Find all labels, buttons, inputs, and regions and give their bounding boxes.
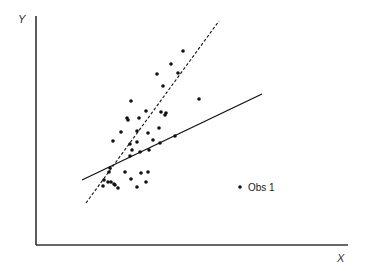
data-point [129,99,133,103]
data-point [169,62,173,66]
data-point [107,170,111,174]
data-point [158,141,162,145]
data-point [123,170,127,174]
data-point [146,170,150,174]
data-point [155,72,159,76]
data-point [139,171,143,175]
data-point [137,116,141,120]
data-point [128,142,132,146]
data-point [144,109,148,113]
scatter-chart: Y X Obs 1 [0,0,366,271]
data-point [135,140,139,144]
data-point [138,150,142,154]
data-point [181,49,185,53]
data-point [197,97,201,101]
data-point [147,148,151,152]
data-point [163,113,167,117]
data-point [128,154,132,158]
data-point [176,71,180,75]
data-point [151,138,155,142]
data-point [173,134,177,138]
y-axis-label: Y [18,13,26,25]
data-point [109,180,113,184]
regression-dashed-line [86,21,219,203]
data-point [161,84,165,88]
data-point [111,139,115,143]
data-point [135,129,139,133]
data-point [126,118,130,122]
data-point [144,180,148,184]
data-point [116,186,120,190]
x-axis-label: X [336,252,345,264]
data-point [113,183,117,187]
legend-marker-dot [238,185,242,189]
data-point [102,178,106,182]
data-point [135,185,139,189]
data-point [108,166,112,170]
data-point [157,126,161,130]
data-point [119,130,123,134]
data-point [130,148,134,152]
data-point [159,110,163,114]
regression-lines [82,21,262,203]
data-points [101,49,201,190]
legend-label-obs1: Obs 1 [248,182,275,193]
data-point [129,177,133,181]
data-point [146,131,150,135]
data-point [101,184,105,188]
legend: Obs 1 [238,182,275,193]
